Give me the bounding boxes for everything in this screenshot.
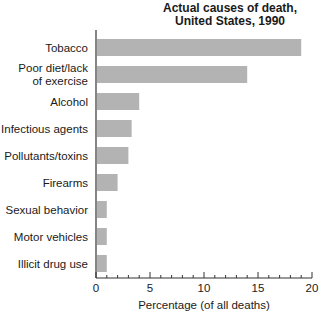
bar-chart: TobaccoPoor diet/lackof exerciseAlcoholI… — [0, 0, 328, 334]
category-label: Pollutants/toxins — [4, 150, 88, 162]
bar-alcohol — [97, 93, 139, 110]
x-axis-label: Percentage (of all deaths) — [96, 299, 312, 311]
bar-motor-vehicles — [97, 228, 107, 245]
bar-tobacco — [97, 39, 301, 56]
x-tick-label: 15 — [252, 282, 265, 294]
category-label: Illicit drug use — [18, 258, 88, 270]
bar-firearms — [97, 174, 118, 191]
category-label: Alcohol — [50, 96, 88, 108]
category-label: Tobacco — [45, 42, 88, 54]
category-label: Sexual behavior — [6, 204, 89, 216]
category-label: Poor diet/lackof exercise — [18, 62, 88, 87]
bar-pollutants-toxins — [97, 147, 128, 164]
bar-sexual-behavior — [97, 201, 107, 218]
x-tick-label: 20 — [306, 282, 319, 294]
bar-infectious-agents — [97, 120, 132, 137]
x-tick-label: 10 — [198, 282, 211, 294]
bar-poor-diet-lack-of-exercise — [97, 66, 247, 83]
category-label: Firearms — [43, 177, 89, 189]
x-tick-label: 5 — [147, 282, 153, 294]
category-label: Infectious agents — [1, 123, 88, 135]
x-tick-label: 0 — [93, 282, 99, 294]
bar-illicit-drug-use — [97, 255, 107, 272]
category-label: Motor vehicles — [14, 231, 88, 243]
